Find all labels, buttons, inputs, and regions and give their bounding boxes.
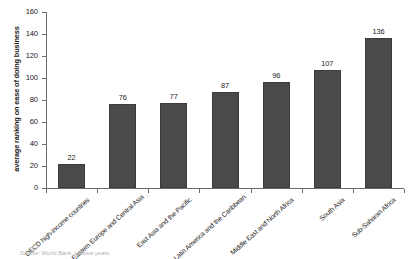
y-tick-mark (42, 56, 46, 57)
y-tick-label: 100 (0, 72, 38, 83)
bar (160, 103, 187, 188)
bar (212, 92, 239, 188)
source-note: Source: World Bank, various years. (20, 250, 111, 256)
y-tick-mark (42, 166, 46, 167)
y-tick-label: 140 (0, 28, 38, 39)
y-tick-mark (42, 122, 46, 123)
x-tick-mark (148, 189, 149, 193)
bar (314, 70, 341, 188)
y-axis-line (46, 12, 47, 189)
y-tick-label: 20 (0, 160, 38, 171)
bar-value-label: 22 (52, 153, 92, 162)
bar-value-label: 87 (205, 81, 245, 90)
bar-chart: average ranking on ease of doing busines… (0, 0, 408, 259)
x-tick-mark (404, 189, 405, 193)
bar (58, 164, 85, 188)
y-tick-label: 0 (0, 182, 38, 193)
bar (263, 82, 290, 188)
y-tick-mark (42, 144, 46, 145)
bar-value-label: 76 (103, 93, 143, 102)
x-tick-mark (251, 189, 252, 193)
bar-value-label: 107 (307, 59, 347, 68)
y-tick-label: 160 (0, 6, 38, 17)
x-tick-mark (199, 189, 200, 193)
x-axis-line (46, 188, 404, 189)
y-tick-label: 120 (0, 50, 38, 61)
y-tick-label: 60 (0, 116, 38, 127)
bar-value-label: 96 (256, 71, 296, 80)
bar-value-label: 136 (358, 27, 398, 36)
y-tick-mark (42, 100, 46, 101)
y-tick-mark (42, 78, 46, 79)
y-tick-label: 80 (0, 94, 38, 105)
x-tick-mark (97, 189, 98, 193)
x-tick-mark (353, 189, 354, 193)
y-tick-mark (42, 12, 46, 13)
bar (109, 104, 136, 188)
y-tick-mark (42, 34, 46, 35)
y-tick-label: 40 (0, 138, 38, 149)
bar-value-label: 77 (154, 92, 194, 101)
x-tick-mark (302, 189, 303, 193)
x-tick-mark (46, 189, 47, 193)
bar (365, 38, 392, 188)
